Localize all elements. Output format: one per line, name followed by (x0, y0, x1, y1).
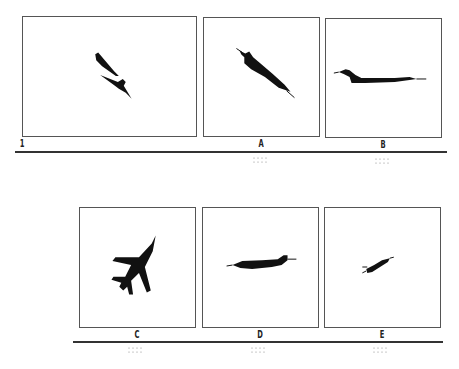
panel-a-frame[interactable] (203, 17, 320, 137)
jet-top-view-icon (80, 208, 195, 327)
panel-a-dots (253, 157, 267, 163)
top-divider (15, 151, 447, 153)
panel-d-label: D (249, 329, 272, 340)
panel-c-dots (128, 347, 142, 353)
jet-climbing-icon (325, 208, 440, 327)
panel-b-frame[interactable] (325, 18, 442, 138)
jet-side-left-icon (326, 19, 441, 137)
panel-b-dots (375, 158, 389, 164)
two-aircraft-icon (23, 17, 196, 136)
panel-e-dots (373, 347, 387, 353)
jet-side-right-icon (203, 208, 318, 327)
panel-e-label: E (371, 329, 394, 340)
panel-c-label: C (126, 329, 149, 340)
panel-a-label: A (250, 138, 273, 149)
panel-b-label: B (372, 139, 395, 150)
bottom-divider (73, 341, 443, 343)
panel-d-dots (251, 347, 265, 353)
panel-d-frame[interactable] (202, 207, 319, 328)
panel-1-label: 1 (11, 138, 34, 149)
jet-diving-icon (204, 18, 319, 136)
panel-e-frame[interactable] (324, 207, 441, 328)
panel-1-frame (22, 16, 197, 137)
panel-c-frame[interactable] (79, 207, 196, 328)
